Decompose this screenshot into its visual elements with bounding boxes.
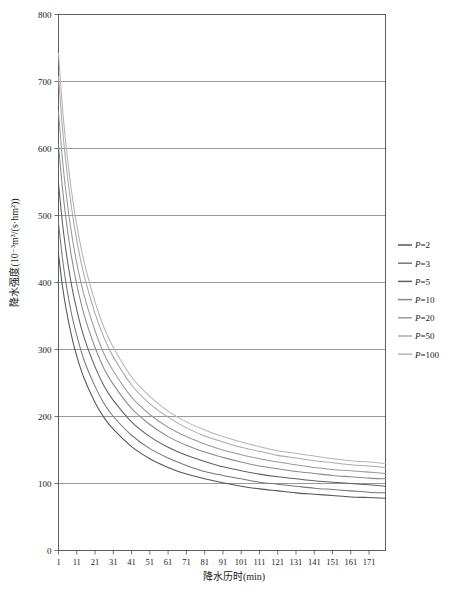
curve-p-10 xyxy=(59,144,386,478)
x-tick-label-61: 61 xyxy=(164,557,173,567)
y-tick-label-700: 700 xyxy=(38,77,52,87)
x-tick-label-51: 51 xyxy=(146,557,155,567)
chart-figure: 1112131415161718191101111121131141151161… xyxy=(0,0,462,593)
x-tick-label-31: 31 xyxy=(109,557,118,567)
curve-p-100 xyxy=(59,53,386,463)
x-tick-label-161: 161 xyxy=(344,557,357,567)
y-tick-label-200: 200 xyxy=(38,412,52,422)
legend-label-p-5: P=5 xyxy=(414,277,431,287)
x-tick-label-101: 101 xyxy=(235,557,248,567)
x-tick-label-171: 171 xyxy=(363,557,376,567)
y-axis-title: 降水强度(10⁻³m³/(s·hm²)) xyxy=(8,198,21,306)
legend-label-p-3: P=3 xyxy=(414,259,431,269)
chart-legend: P=2P=3P=5P=10P=20P=50P=100 xyxy=(398,240,440,359)
x-tick-label-111: 111 xyxy=(253,557,265,567)
curve-p-20 xyxy=(59,112,386,474)
y-axis-ticks xyxy=(55,15,59,551)
x-tick-label-121: 121 xyxy=(271,557,284,567)
legend-label-p-10: P=10 xyxy=(414,295,435,305)
y-tick-label-800: 800 xyxy=(38,10,52,20)
y-tick-label-500: 500 xyxy=(38,211,52,221)
x-tick-label-71: 71 xyxy=(182,557,191,567)
curve-p-3 xyxy=(59,223,386,493)
x-axis-ticks xyxy=(59,551,370,555)
y-tick-label-400: 400 xyxy=(38,278,52,288)
y-axis-tick-labels: 0100200300400500600700800 xyxy=(38,10,52,556)
x-axis-tick-labels: 1112131415161718191101111121131141151161… xyxy=(56,557,375,567)
x-tick-label-141: 141 xyxy=(308,557,321,567)
x-tick-label-1: 1 xyxy=(56,557,60,567)
x-tick-label-151: 151 xyxy=(326,557,339,567)
data-curves xyxy=(59,53,386,498)
x-tick-label-91: 91 xyxy=(219,557,228,567)
x-tick-label-11: 11 xyxy=(73,557,81,567)
x-tick-label-21: 21 xyxy=(91,557,100,567)
legend-label-p-20: P=20 xyxy=(414,313,435,323)
legend-label-p-2: P=2 xyxy=(414,240,430,250)
x-tick-label-81: 81 xyxy=(200,557,209,567)
rainfall-intensity-duration-chart: 1112131415161718191101111121131141151161… xyxy=(0,0,462,593)
y-tick-label-0: 0 xyxy=(47,546,52,556)
legend-label-p-100: P=100 xyxy=(414,350,440,360)
y-tick-label-100: 100 xyxy=(38,479,52,489)
x-tick-label-131: 131 xyxy=(290,557,303,567)
legend-label-p-50: P=50 xyxy=(414,331,435,341)
x-axis-title: 降水历时(min) xyxy=(203,570,265,583)
x-tick-label-41: 41 xyxy=(127,557,136,567)
y-tick-label-600: 600 xyxy=(38,144,52,154)
y-tick-label-300: 300 xyxy=(38,345,52,355)
